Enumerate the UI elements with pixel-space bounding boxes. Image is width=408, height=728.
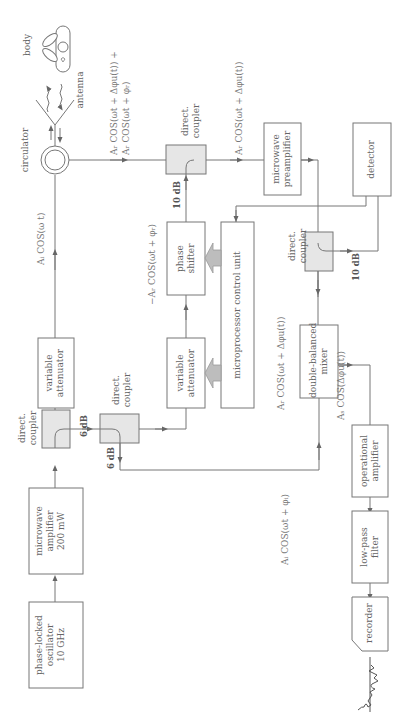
coupler-2-label: direct. coupler xyxy=(111,368,133,412)
control-arrow-attenuator xyxy=(205,358,221,388)
detector-label: detector xyxy=(366,123,377,196)
signal-clean: Aᵣ COS(ωt + Δφu(t)) xyxy=(234,62,245,155)
oscillator-label: phase-locked oscillator 10 GHz xyxy=(34,602,67,688)
body-icon xyxy=(41,26,70,72)
coupler-4-gain: 10 dB xyxy=(351,252,362,282)
mixer-label: double-balanced mixer xyxy=(308,325,330,398)
signal-rx-line1: Aᵣ COS(ωt + Δφu(t)) + xyxy=(109,51,120,155)
coupler-3-gain: 10 dB xyxy=(172,180,183,210)
microwave-amplifier-label: microwave amplifier 200 mW xyxy=(34,488,67,574)
opamp-label: operational amplifier xyxy=(359,425,381,497)
coupler-1-gain: 6 dB xyxy=(79,414,90,438)
circulator-icon xyxy=(45,150,65,170)
lpf-label: low-pass filter xyxy=(359,511,381,583)
signal-tx: Aᵢ COS(ω t) xyxy=(36,213,47,265)
antenna-label: antenna xyxy=(75,68,86,112)
mcu-label: microprocessor control unit xyxy=(232,222,243,408)
coupler-1-label: direct. coupler xyxy=(17,406,39,450)
recorded-waveform-icon xyxy=(358,657,378,712)
coupler-2-gain: 6 dB xyxy=(106,446,117,470)
coupler-4-label: direct. coupler xyxy=(287,224,309,268)
signal-mixer-in: Aᵣ COS(ωt + Δφu(t)) xyxy=(276,317,287,410)
variable-attenuator-1-label: variable attenuator xyxy=(44,338,66,408)
microwave-preamplifier-label: microwave preamplifier xyxy=(271,123,293,195)
coupler-3-label: direct. coupler xyxy=(180,99,202,143)
control-arrow-phase xyxy=(205,243,221,273)
variable-attenuator-2-label: variable attenuator xyxy=(175,338,197,408)
circulator-label: circulator xyxy=(20,120,31,180)
antenna-icon xyxy=(36,100,74,125)
signal-lo: Aᵢ COS(ωt + φᵢ) xyxy=(280,494,291,565)
signal-rx-line2: Aᵣ COS(ωt + φᵣ) xyxy=(121,81,132,155)
phase-shifter-label: phase shifter xyxy=(175,222,197,295)
signal-baseband: Aₛ COS(Δφu(t)) xyxy=(336,351,347,420)
signal-cancel: −Aᵣ COS(ωt + φᵣ) xyxy=(147,224,158,305)
body-label: body xyxy=(22,30,33,60)
recorder-label: recorder xyxy=(364,596,375,650)
